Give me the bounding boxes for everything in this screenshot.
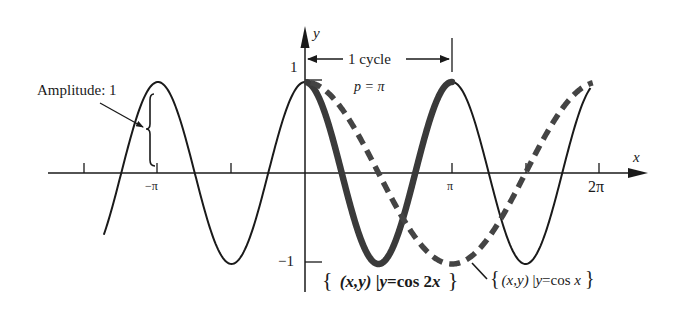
cos-2x-label-eq: =cos 2 (387, 272, 432, 291)
x-axis-arrow-icon (628, 168, 648, 178)
period-label: p = π (353, 79, 385, 94)
cos-2x-label-x: x (431, 272, 441, 291)
y-axis-arrow-icon (301, 26, 310, 48)
cosine-graph: x y −π π 2π 1 −1 1 cycle p = π (0, 0, 683, 314)
cos-x-label-pair: (x,y) (502, 272, 529, 289)
brace-close: } (448, 267, 459, 292)
cos-2x-label-bar: | (371, 272, 379, 291)
brace-open-2: { (490, 267, 500, 289)
y-axis: y (301, 25, 321, 292)
y-axis-label: y (311, 25, 320, 41)
x-tick-label-minus-pi: −π (145, 179, 158, 193)
amplitude-annotation: Amplitude: 1 (37, 82, 155, 166)
cos-x-label-bar: | (529, 272, 536, 288)
function-labels: { (x,y) |y=cos 2x } {(x,y) |y=cos x} (322, 263, 595, 292)
cos-2x-label-y: y (377, 272, 387, 291)
cycle-annotation: 1 cycle p = π (308, 38, 452, 94)
cos-x-label-eq: =cos (542, 272, 574, 288)
x-axis-label: x (632, 149, 640, 165)
cos-x-label-x: x (573, 272, 581, 288)
brace-open: { (322, 267, 333, 292)
cos-x-label-y: y (533, 272, 542, 288)
amplitude-label: Amplitude: 1 (37, 82, 117, 98)
y-tick-label-1: 1 (290, 59, 298, 75)
amplitude-brace-icon (146, 94, 155, 166)
cos-x-label: {(x,y) |y=cos x} (490, 267, 595, 289)
x-tick-label-pi: π (447, 179, 453, 193)
brace-close-2: } (585, 267, 595, 289)
x-axis: x (48, 149, 648, 178)
cos-x-label-pointer (472, 263, 487, 279)
cos-2x-label: { (x,y) |y=cos 2x } (322, 267, 458, 292)
x-tick-label-2pi: 2π (588, 178, 604, 195)
y-tick-label-minus-1: −1 (278, 253, 294, 269)
cycle-label: 1 cycle (348, 51, 391, 67)
cos-2x-label-body: (x,y) |y=cos 2x (336, 272, 445, 291)
cos-2x-label-pair: (x,y) (340, 272, 372, 291)
